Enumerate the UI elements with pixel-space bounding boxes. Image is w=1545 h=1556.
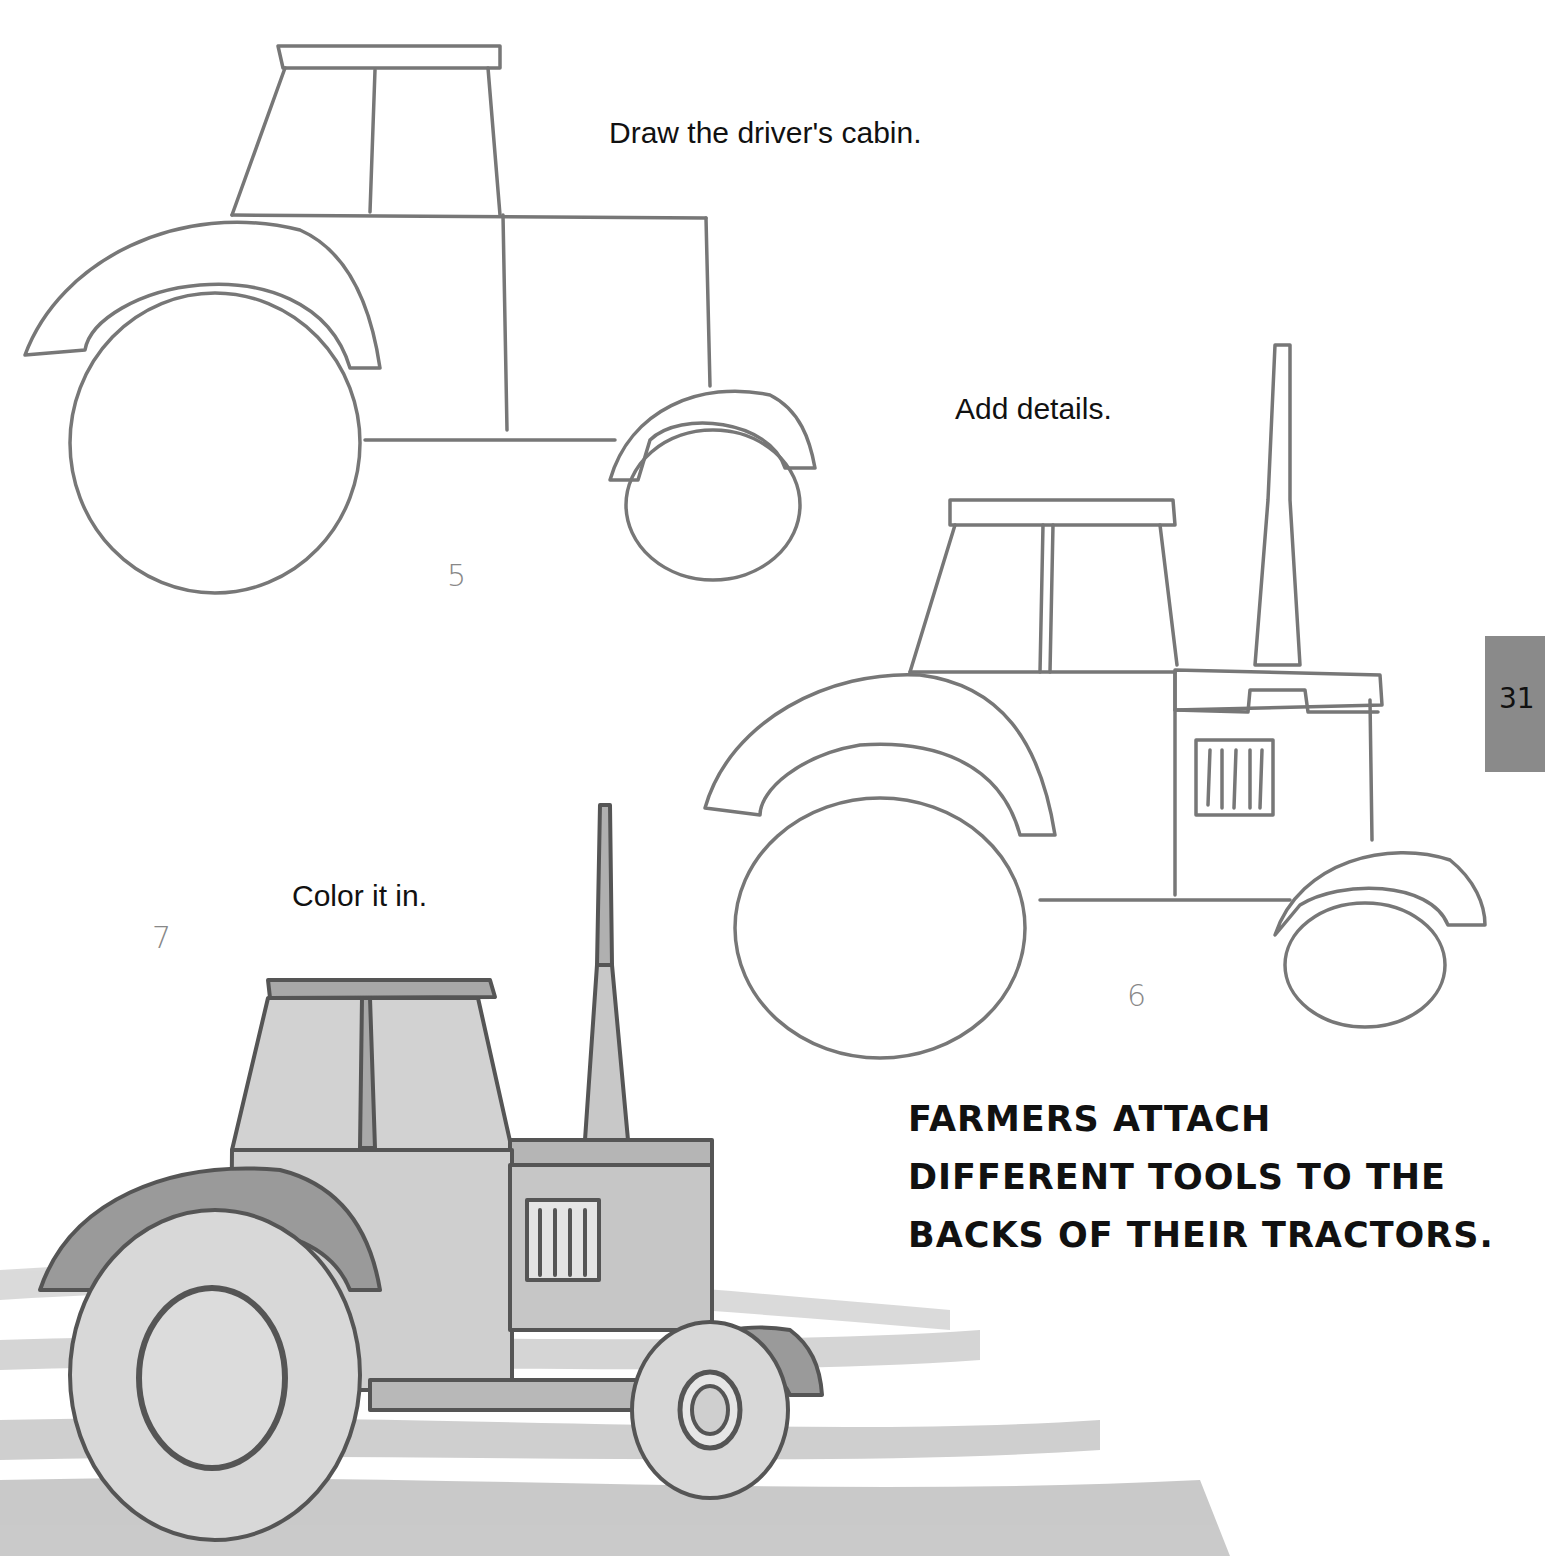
page-number-tab: 31 bbox=[1485, 636, 1545, 772]
tractor-step-6-drawing bbox=[705, 345, 1485, 1058]
step-6-number: 6 bbox=[1127, 978, 1146, 1013]
fact-line-2: DIFFERENT TOOLS TO THE bbox=[908, 1148, 1494, 1206]
step-7-number: 7 bbox=[152, 920, 171, 955]
fact-line-3: BACKS OF THEIR TRACTORS. bbox=[908, 1206, 1494, 1264]
step-5-caption: Draw the driver's cabin. bbox=[609, 116, 922, 150]
step-7-caption: Color it in. bbox=[292, 879, 427, 913]
fact-line-1: FARMERS ATTACH bbox=[908, 1090, 1494, 1148]
illustrations bbox=[0, 0, 1545, 1556]
page-number: 31 bbox=[1499, 682, 1535, 715]
fact-text: FARMERS ATTACH DIFFERENT TOOLS TO THE BA… bbox=[908, 1090, 1494, 1264]
step-6-caption: Add details. bbox=[955, 392, 1112, 426]
step-5-number: 5 bbox=[447, 558, 466, 593]
